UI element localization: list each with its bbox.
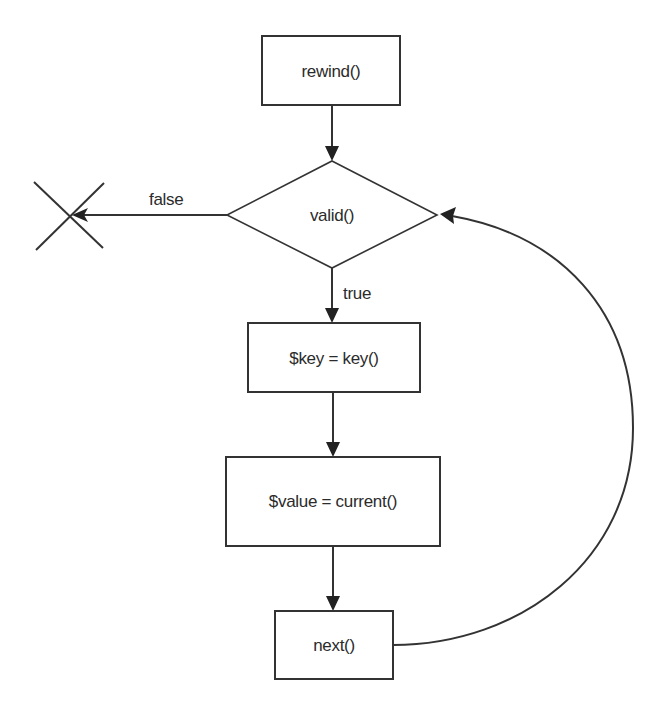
- arrowhead-icon: [326, 442, 340, 457]
- edge-valid-false: false: [72, 190, 227, 222]
- edge-rewind-to-valid: [325, 105, 339, 161]
- node-rewind: rewind(): [262, 36, 400, 105]
- node-valid: valid(): [227, 161, 437, 268]
- edge-current-to-next: [326, 546, 340, 611]
- arrowhead-icon: [325, 308, 339, 323]
- node-next-label: next(): [313, 636, 355, 655]
- edge-key-to-current: [326, 392, 340, 457]
- node-current: $value = current(): [226, 457, 440, 546]
- edge-label-true: true: [343, 284, 371, 303]
- edge-label-false: false: [149, 190, 183, 209]
- node-current-label: $value = current(): [269, 492, 397, 511]
- node-next: next(): [275, 611, 393, 679]
- node-key: $key = key(): [248, 323, 420, 392]
- node-key-label: $key = key(): [289, 349, 378, 368]
- arrowhead-icon: [325, 146, 339, 161]
- edge-next-to-valid-loop: [393, 207, 633, 645]
- flowchart-diagram: rewind() valid() false true $key = key(): [0, 0, 657, 707]
- edge-valid-true: true: [325, 268, 371, 323]
- arrowhead-icon: [326, 596, 340, 611]
- node-valid-label: valid(): [310, 206, 354, 225]
- node-rewind-label: rewind(): [301, 62, 360, 81]
